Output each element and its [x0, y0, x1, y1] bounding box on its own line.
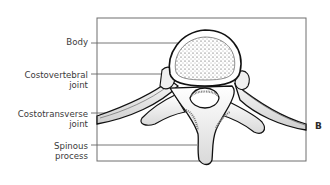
- vertebra-illustration: [0, 0, 330, 185]
